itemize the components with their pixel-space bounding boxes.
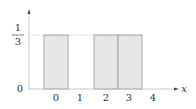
x-axis-label: x	[181, 83, 187, 94]
y-tick-zero: 0	[17, 83, 23, 94]
bar-0	[44, 35, 68, 89]
bar-2	[94, 35, 118, 89]
y-tick-frac-denominator: 3	[15, 36, 21, 47]
bar-3	[118, 35, 142, 89]
x-tick-2: 2	[103, 92, 109, 103]
x-axis-arrow-icon	[174, 88, 179, 91]
x-tick-1: 1	[77, 92, 83, 103]
y-axis-arrow-icon	[28, 9, 31, 14]
x-tick-0: 0	[53, 92, 59, 103]
y-tick-frac-numerator: 1	[15, 22, 21, 33]
x-tick-4: 4	[150, 92, 156, 103]
x-tick-3: 3	[126, 92, 132, 103]
histogram-chart: 0 1 3 0 1 2 3 4 x	[0, 0, 196, 109]
